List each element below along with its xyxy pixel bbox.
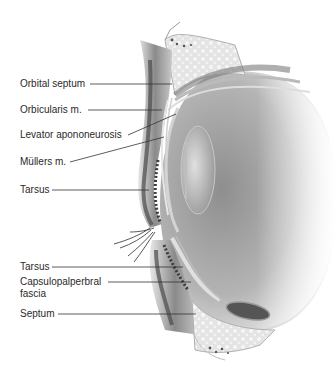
label-orbicularis: Orbicularis m. <box>20 104 82 116</box>
eyelashes <box>114 228 155 262</box>
label-levator-aponeurosis: Levator apononeurosis <box>20 129 122 141</box>
label-septum: Septum <box>20 308 54 320</box>
label-lower-tarsus: Tarsus <box>20 261 49 273</box>
label-upper-tarsus: Tarsus <box>20 184 49 196</box>
label-capsulopalpebral-line2: fascia <box>20 288 101 300</box>
label-capsulopalpebral-fascia: Capsulopalperbral fascia <box>20 276 101 300</box>
label-orbital-septum: Orbital septum <box>20 78 85 90</box>
label-mullers: Müllers m. <box>20 156 66 168</box>
label-capsulopalpebral-line1: Capsulopalperbral <box>20 276 101 288</box>
